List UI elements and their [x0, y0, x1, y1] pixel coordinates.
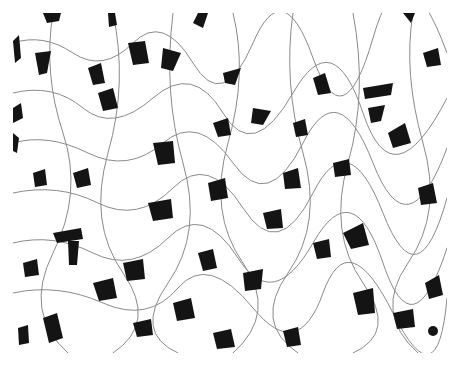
- pearlite-islands: [13, 13, 443, 349]
- micrograph-image: [13, 13, 447, 353]
- microstructure-graphic: [13, 13, 447, 353]
